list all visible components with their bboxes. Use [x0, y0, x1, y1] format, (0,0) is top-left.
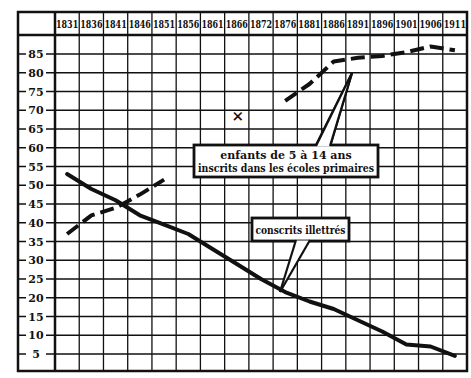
y-tick-label: 40 [28, 217, 44, 230]
literacy-chart: 1831183618411846185118561861186618721876… [0, 0, 471, 378]
y-tick-label: 85 [28, 48, 43, 61]
y-tick-label: 10 [28, 329, 44, 342]
enrollment-line [67, 180, 164, 234]
x-axis-labels: 1831183618411846185118561861186618721876… [56, 18, 466, 30]
y-tick-label: 55 [28, 161, 43, 174]
x-tick-label: 1911 [444, 18, 466, 30]
x-tick-label: 1856 [177, 18, 199, 30]
x-tick-label: 1886 [323, 18, 345, 30]
y-tick-label: 65 [28, 123, 43, 136]
x-tick-label: 1831 [56, 18, 78, 30]
grid [18, 12, 467, 371]
x-tick-label: 1841 [104, 18, 126, 30]
x-tick-label: 1906 [420, 18, 442, 30]
x-tick-label: 1866 [226, 18, 248, 30]
illiterate-callout-label: conscrits illettrés [256, 224, 346, 237]
x-marker: × [231, 107, 244, 125]
x-tick-label: 1851 [153, 18, 175, 30]
x-tick-label: 1896 [371, 18, 393, 30]
markers: × [231, 107, 244, 125]
y-tick-label: 70 [28, 104, 44, 117]
y-tick-label: 5 [32, 348, 40, 361]
y-tick-label: 15 [28, 311, 43, 324]
enrollment-callout-label: inscrits dans les écoles primaires [198, 162, 374, 175]
y-tick-label: 50 [28, 179, 44, 192]
x-tick-label: 1901 [395, 18, 417, 30]
enrollment-callout-label: enfants de 5 à 14 ans [220, 149, 351, 162]
x-tick-label: 1876 [274, 18, 296, 30]
x-tick-label: 1891 [347, 18, 369, 30]
y-tick-label: 75 [28, 86, 43, 99]
callouts: enfants de 5 à 14 ansinscrits dans les é… [194, 73, 378, 292]
y-tick-label: 80 [28, 67, 44, 80]
y-tick-label: 30 [28, 254, 44, 267]
y-tick-label: 25 [28, 273, 43, 286]
x-tick-label: 1881 [298, 18, 320, 30]
y-axis-labels: 510152025303540455055606570758085 [28, 48, 44, 361]
x-tick-label: 1861 [201, 18, 223, 30]
y-tick-label: 35 [28, 236, 43, 249]
x-tick-label: 1872 [250, 18, 272, 30]
series-lines [67, 47, 455, 356]
y-tick-label: 45 [28, 198, 43, 211]
x-tick-label: 1846 [129, 18, 151, 30]
x-tick-label: 1836 [80, 18, 102, 30]
y-tick-label: 20 [28, 292, 44, 305]
y-tick-label: 60 [28, 142, 44, 155]
